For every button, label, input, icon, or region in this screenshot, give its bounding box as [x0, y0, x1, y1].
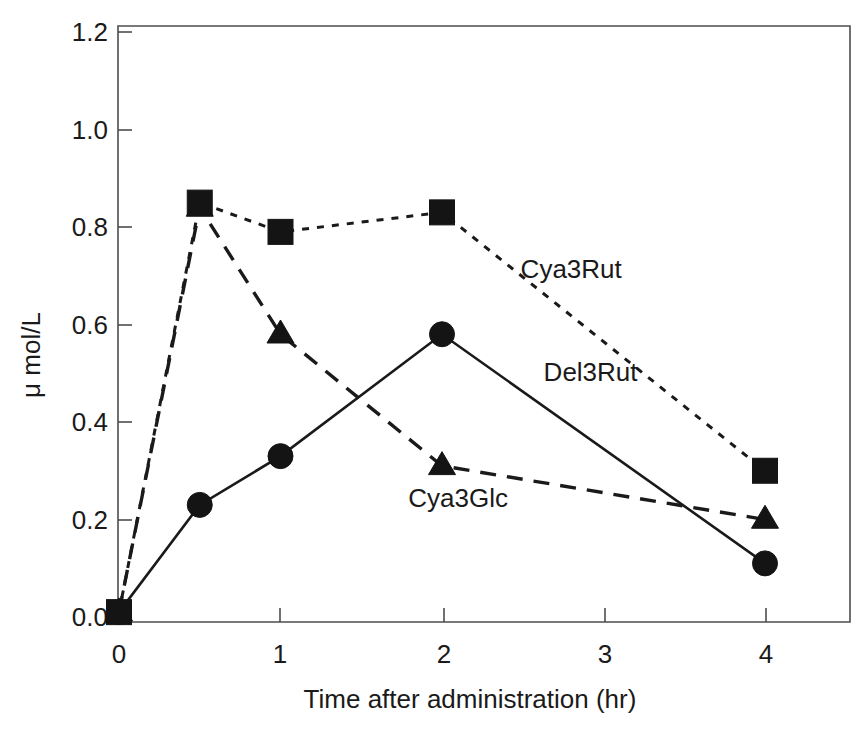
plot-border [118, 26, 850, 622]
x-axis-tick-labels: 0 1 2 3 4 [112, 639, 773, 669]
series-label-cya3glc: Cya3Glc [408, 483, 508, 513]
data-point-cya3rut-4-square-marker [753, 458, 778, 483]
data-point-del3rut-2-circle-marker [268, 444, 293, 469]
x-axis-title: Time after administration (hr) [304, 684, 637, 714]
series-label-del3rut: Del3Rut [544, 357, 639, 387]
y-tick-label-1-2: 1.2 [72, 17, 108, 47]
y-tick-label-0-0: 0.0 [72, 602, 108, 632]
line-chart: 1.2 1.0 0.8 0.6 0.4 0.2 0.0 0 1 2 3 4 μ … [0, 0, 867, 729]
x-tick-label-4: 4 [759, 639, 773, 669]
data-point-cya3glc-3-triangle-marker [429, 452, 456, 475]
x-tick-label-1: 1 [273, 639, 287, 669]
series-label-cya3rut: Cya3Rut [521, 254, 623, 284]
x-axis-ticks [119, 608, 766, 622]
x-tick-label-3: 3 [598, 639, 612, 669]
series-markers [106, 190, 779, 625]
series-line-cya3glc [119, 208, 765, 613]
series-line-cya3rut [119, 203, 765, 613]
data-point-cya3rut-3-square-marker [430, 200, 455, 225]
series-lines [119, 203, 765, 613]
plot-frame [118, 26, 850, 622]
chart-figure: 1.2 1.0 0.8 0.6 0.4 0.2 0.0 0 1 2 3 4 μ … [0, 0, 867, 729]
y-tick-label-0-6: 0.6 [72, 310, 108, 340]
y-axis-ticks [118, 32, 132, 617]
data-point-cya3glc-2-triangle-marker [267, 320, 294, 343]
y-axis-title: μ mol/L [16, 312, 46, 398]
y-tick-label-1-0: 1.0 [72, 115, 108, 145]
data-point-del3rut-0-circle-marker [107, 600, 132, 625]
data-point-cya3rut-2-square-marker [268, 219, 293, 244]
y-tick-label-0-4: 0.4 [72, 407, 108, 437]
data-point-del3rut-3-circle-marker [430, 322, 455, 347]
y-tick-label-0-8: 0.8 [72, 212, 108, 242]
x-tick-label-2: 2 [437, 639, 451, 669]
y-axis-tick-labels: 1.2 1.0 0.8 0.6 0.4 0.2 0.0 [72, 17, 108, 632]
data-point-del3rut-1-circle-marker [187, 492, 212, 517]
y-tick-label-0-2: 0.2 [72, 505, 108, 535]
x-tick-label-0: 0 [112, 639, 126, 669]
data-point-del3rut-4-circle-marker [753, 551, 778, 576]
